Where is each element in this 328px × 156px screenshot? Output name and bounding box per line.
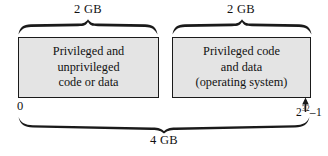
kernel-region-line-1: Privileged code bbox=[196, 44, 288, 60]
end-address-suffix: –1 bbox=[310, 106, 322, 118]
kernel-region-box: Privileged code and data (operating syst… bbox=[172, 37, 311, 98]
brace-top-left bbox=[19, 19, 158, 34]
kernel-region-text: Privileged code and data (operating syst… bbox=[192, 44, 292, 91]
end-address-exponent: 32 bbox=[302, 105, 310, 113]
span-label-total: 4 GB bbox=[128, 133, 200, 148]
brace-bottom bbox=[19, 117, 310, 134]
span-label-kernel: 2 GB bbox=[205, 3, 277, 16]
kernel-region-line-2: and data bbox=[196, 60, 288, 76]
user-region-line-1: Privileged and bbox=[53, 44, 124, 60]
user-region-box: Privileged and unprivileged code or data bbox=[18, 37, 159, 98]
user-region-line-3: code or data bbox=[53, 75, 124, 91]
brace-top-right bbox=[173, 19, 312, 34]
span-label-user: 2 GB bbox=[52, 3, 124, 16]
start-address-label: 0 bbox=[17, 99, 24, 114]
end-address-label: 232–1 bbox=[296, 106, 322, 118]
user-region-line-2: unprivileged bbox=[53, 60, 124, 76]
kernel-region-line-3: (operating system) bbox=[196, 75, 288, 91]
user-region-text: Privileged and unprivileged code or data bbox=[49, 44, 128, 91]
